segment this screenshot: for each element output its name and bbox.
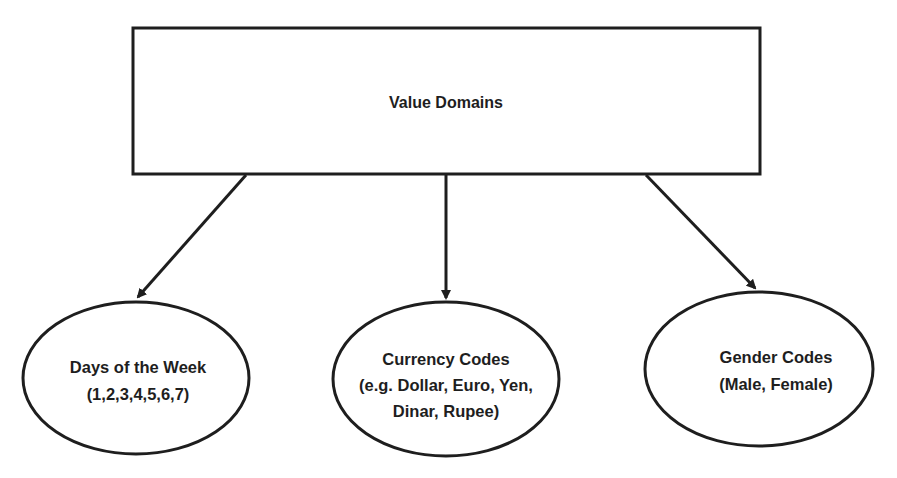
node-currency-line-3: Dinar, Rupee) — [393, 402, 499, 420]
node-gender-line-1: Gender Codes — [720, 348, 833, 366]
node-gender-line-2: (Male, Female) — [719, 375, 833, 393]
node-gender-codes: Gender Codes (Male, Female) — [645, 292, 873, 446]
node-days-ellipse — [23, 302, 249, 454]
root-node: Value Domains — [133, 28, 760, 174]
edge-root-to-days — [138, 175, 246, 297]
node-currency-line-1: Currency Codes — [382, 350, 509, 368]
root-node-label: Value Domains — [389, 94, 503, 111]
node-currency-line-2: (e.g. Dollar, Euro, Yen, — [359, 376, 533, 394]
node-days-line-1: Days of the Week — [70, 358, 207, 376]
edge-root-to-gender — [646, 175, 755, 288]
node-days-line-2: (1,2,3,4,5,6,7) — [87, 385, 190, 403]
node-currency-codes: Currency Codes (e.g. Dollar, Euro, Yen, … — [333, 302, 559, 456]
node-days-of-week: Days of the Week (1,2,3,4,5,6,7) — [23, 302, 249, 454]
node-gender-ellipse — [645, 292, 873, 446]
value-domains-diagram: Value Domains Days of the Week (1,2,3,4,… — [0, 0, 897, 478]
